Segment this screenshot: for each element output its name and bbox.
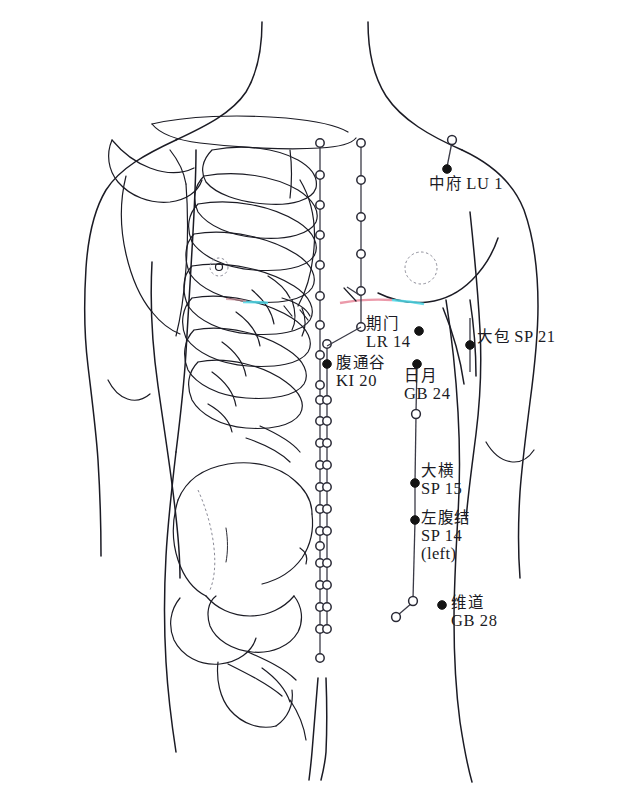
point-label-code-sp15: SP 15 (421, 480, 462, 498)
gb24-lower-node (412, 410, 421, 419)
meridian-node (316, 171, 324, 179)
point-label-code-sp14: SP 14 (421, 527, 471, 545)
point-label-cn-lu1: 中府 (429, 175, 462, 192)
point-label-sp14: 左腹结SP 14(left) (421, 510, 471, 562)
breast-outline (378, 238, 498, 384)
kidney-line-right (357, 139, 365, 331)
point-label-cn-sp21: 大包 (477, 328, 510, 345)
meridian-node (316, 231, 324, 239)
skeleton-pelvis (171, 463, 313, 740)
meridian-node (357, 250, 365, 258)
meridian-node (316, 351, 324, 359)
gb28-node-lower (392, 613, 401, 622)
acupoint-marker-ki20[interactable] (323, 360, 332, 369)
point-label-sp15: 大横SP 15 (421, 463, 462, 498)
point-label-code-ki20: KI 20 (336, 372, 386, 390)
point-label-cn-gb28: 维道 (451, 595, 498, 612)
meridian-node (323, 417, 331, 425)
meridian-lines (316, 139, 365, 662)
point-label-cn-gb24: 日月 (404, 368, 451, 385)
gb28-node-upper (409, 597, 418, 606)
point-label-cn-sp14: 左腹结 (421, 510, 471, 527)
skeleton-ribcage (109, 116, 356, 462)
point-label-lu1: 中府 LU 1 (429, 175, 503, 193)
meridian-node (357, 213, 365, 221)
meridian-node (316, 381, 324, 389)
point-label-sp21: 大包 SP 21 (477, 328, 556, 346)
meridian-node (323, 581, 331, 589)
lu1-upper-node (448, 136, 457, 145)
meridian-node (323, 527, 331, 535)
meridian-node (316, 201, 324, 209)
meridian-node (316, 292, 324, 300)
acupoint-marker-sp14[interactable] (411, 516, 420, 525)
body-outline (85, 22, 538, 782)
meridian-node (357, 176, 365, 184)
acupoint-marker-gb28[interactable] (438, 601, 447, 610)
meridian-node (316, 654, 324, 662)
meridian-node (316, 321, 324, 329)
meridian-node (316, 261, 324, 269)
meridian-node (323, 439, 331, 447)
point-label-gb24: 日月GB 24 (404, 368, 451, 403)
meridian-node (323, 505, 331, 513)
acupoint-marker-lr14[interactable] (415, 327, 424, 336)
acupoint-marker-lu1[interactable] (443, 165, 452, 174)
anatomy-illustration: .ln { fill:none; stroke:#1b1b24; stroke-… (0, 0, 623, 797)
meridian-node (323, 396, 331, 404)
point-label-code-lu1: LU 1 (466, 174, 503, 193)
meridian-node (316, 542, 324, 550)
point-label-cn-ki20: 腹通谷 (336, 355, 386, 372)
meridian-node (323, 625, 331, 633)
point-label-cn-sp15: 大横 (421, 463, 462, 480)
point-label-side-sp14: (left) (421, 545, 471, 563)
acupoint-marker-sp15[interactable] (411, 479, 420, 488)
acupoint-marker-sp21[interactable] (466, 341, 475, 350)
meridian-node (316, 139, 324, 147)
point-label-lr14: 期门LR 14 (366, 316, 411, 351)
meridian-node (323, 461, 331, 469)
point-label-gb28: 维道GB 28 (451, 595, 498, 630)
point-label-code-gb28: GB 28 (451, 612, 498, 630)
point-label-ki20: 腹通谷KI 20 (336, 355, 386, 390)
point-label-code-gb24: GB 24 (404, 385, 451, 403)
point-label-code-lr14: LR 14 (366, 333, 411, 351)
meridian-node (323, 603, 331, 611)
point-label-cn-lr14: 期门 (366, 316, 411, 333)
meridian-node (323, 559, 331, 567)
meridian-node (357, 139, 365, 147)
meridian-node (323, 483, 331, 491)
acupuncture-chart: .ln { fill:none; stroke:#1b1b24; stroke-… (0, 0, 623, 797)
point-label-code-sp21: SP 21 (514, 327, 555, 346)
